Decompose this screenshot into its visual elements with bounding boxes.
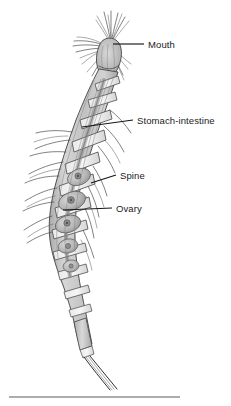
caudal-filaments <box>84 356 117 390</box>
copepod-illustration <box>23 11 131 390</box>
label-text-stomach-intestine: Stomach-intestine <box>137 115 215 126</box>
label-text-ovary: Ovary <box>116 203 142 214</box>
label-text-mouth: Mouth <box>148 39 175 50</box>
label-mouth[interactable]: Mouth <box>113 39 175 50</box>
label-text-spine: Spine <box>120 170 145 181</box>
annotation-layer: Mouth Stomach-intestine Spine Ovary <box>63 39 215 214</box>
leader-line-spine <box>91 175 116 183</box>
copepod-anatomy-figure: Mouth Stomach-intestine Spine Ovary <box>0 0 231 406</box>
